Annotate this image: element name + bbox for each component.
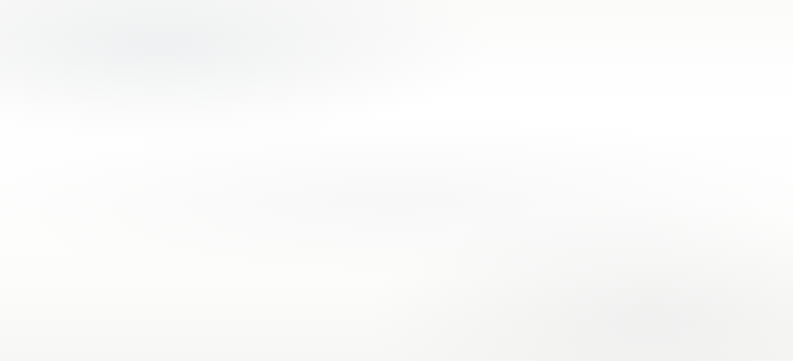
- legend: 200620162019: [543, 29, 737, 61]
- bar-chart: Percent 858884858785*8583817882716974533…: [0, 0, 793, 361]
- gridline: [64, 79, 774, 80]
- gridline: [64, 247, 774, 248]
- y-axis-tick: [56, 134, 64, 135]
- legend-label: 2006: [571, 37, 603, 53]
- legend-swatch-icon: [677, 40, 687, 50]
- x-axis-ticks: [63, 302, 775, 309]
- legend-label: 2016: [630, 37, 662, 53]
- legend-item: 2016: [617, 37, 662, 53]
- y-axis-minor-tick: [58, 274, 63, 275]
- x-axis-category-label: For a trophy: [678, 309, 783, 324]
- x-axis-label-line: harm: [144, 338, 249, 353]
- legend-item: 2019: [677, 37, 722, 53]
- y-axis-minor-tick: [58, 218, 63, 219]
- y-axis-tick: [56, 246, 64, 247]
- x-axis-label-line: challenge: [589, 324, 694, 339]
- y-axis-tick: [56, 190, 64, 191]
- x-axis-tick: [774, 302, 775, 308]
- x-axis-labels: For the meatTo protecthumans fromharmTo …: [63, 309, 775, 361]
- y-axis-tick: [56, 302, 64, 303]
- y-axis-tick-label: 80: [747, 70, 793, 85]
- y-axis-minor-tick: [58, 106, 63, 107]
- y-axis-tick: [56, 22, 64, 23]
- legend-swatch-icon: [617, 40, 627, 50]
- x-axis-tick: [241, 302, 242, 308]
- y-axis-tick: [56, 78, 64, 79]
- legend-label: 2019: [690, 37, 722, 53]
- x-axis-tick: [330, 302, 331, 308]
- x-axis-tick: [508, 302, 509, 308]
- x-axis-tick: [419, 302, 420, 308]
- gridline: [64, 135, 774, 136]
- scan-edge-line: [0, 9, 793, 10]
- y-axis-tick-label: 40: [747, 182, 793, 197]
- x-axis-tick: [152, 302, 153, 308]
- legend-swatch-icon: [558, 40, 568, 50]
- y-axis-tick-label: 20: [747, 238, 793, 253]
- x-axis-tick: [686, 302, 687, 308]
- gridline: [64, 191, 774, 192]
- plot-area: [63, 22, 775, 302]
- x-axis-tick: [597, 302, 598, 308]
- legend-item: 2006: [558, 37, 603, 53]
- y-axis-minor-tick: [58, 50, 63, 51]
- y-axis-tick-label: 60: [747, 126, 793, 141]
- y-axis-tick-label: 100: [747, 14, 793, 29]
- y-axis-minor-tick: [58, 162, 63, 163]
- x-axis-label-line: property: [411, 324, 516, 339]
- y-axis-title: Percent: [31, 74, 46, 194]
- x-axis-label-line: For a trophy: [678, 309, 783, 324]
